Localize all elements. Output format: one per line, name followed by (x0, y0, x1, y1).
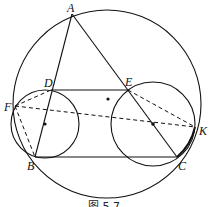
dashed-ek (128, 90, 195, 127)
label-c: C (178, 159, 187, 173)
circumcircle (13, 10, 201, 198)
figure-caption: 图 5.7 (88, 200, 120, 207)
label-a: A (66, 1, 75, 15)
center-dot-middle (106, 97, 109, 100)
center-dot-left (43, 122, 46, 125)
dashed-fk (15, 106, 195, 127)
label-k: K (198, 124, 208, 138)
label-f: F (3, 100, 12, 114)
segment-ab (35, 14, 72, 157)
label-b: B (27, 159, 35, 173)
arc-ck (177, 127, 195, 157)
label-e: E (124, 75, 133, 89)
geometry-figure: A B C D E F K 图 5.7 (0, 0, 210, 207)
label-d: D (43, 76, 53, 90)
center-dot-right (151, 122, 155, 126)
